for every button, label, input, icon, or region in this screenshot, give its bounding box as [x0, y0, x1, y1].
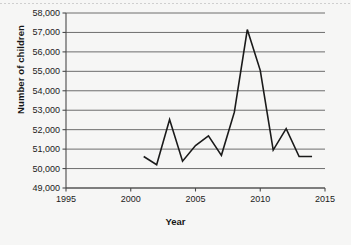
x-tick-label: 2000	[121, 194, 141, 204]
x-tick-label: 1995	[56, 194, 76, 204]
plot-area	[0, 0, 351, 245]
x-tick-label: 2015	[315, 194, 335, 204]
x-tick-label: 2010	[250, 194, 270, 204]
x-axis-title: Year	[0, 216, 351, 227]
line-chart: Number of children 49,00050,00051,00052,…	[0, 0, 351, 245]
data-line	[144, 30, 312, 165]
x-tick-label: 2005	[185, 194, 205, 204]
